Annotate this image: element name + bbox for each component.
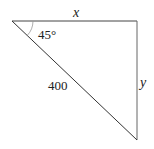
triangle xyxy=(12,21,137,140)
label-x: x xyxy=(72,5,80,20)
angle-arc xyxy=(27,21,33,36)
label-hypotenuse: 400 xyxy=(48,78,68,93)
triangle-diagram: x 45° 400 y xyxy=(0,0,154,149)
label-angle: 45° xyxy=(38,27,56,42)
hypotenuse xyxy=(12,21,137,140)
label-y: y xyxy=(138,75,147,90)
